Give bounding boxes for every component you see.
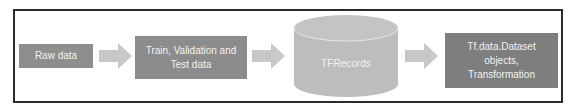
right-arrow-icon — [405, 43, 438, 69]
split-label-line2: Test data — [146, 58, 237, 72]
tfdata-label-line3: Transformation — [467, 68, 535, 82]
right-arrow-icon — [252, 43, 285, 69]
database-cylinder-icon — [293, 14, 399, 98]
right-arrow-icon — [99, 43, 132, 69]
tfrecords-label: TFRecords — [293, 58, 399, 70]
train-validation-test-node: Train, Validation and Test data — [135, 36, 247, 79]
tfdata-label-line2: objects, — [467, 54, 535, 68]
tfdata-label-line1: Tf.data.Dataset — [467, 40, 535, 54]
raw-data-node: Raw data — [19, 44, 93, 68]
raw-data-label: Raw data — [35, 49, 77, 63]
split-label-line1: Train, Validation and — [146, 44, 237, 58]
tf-data-dataset-node: Tf.data.Dataset objects, Transformation — [445, 33, 558, 88]
